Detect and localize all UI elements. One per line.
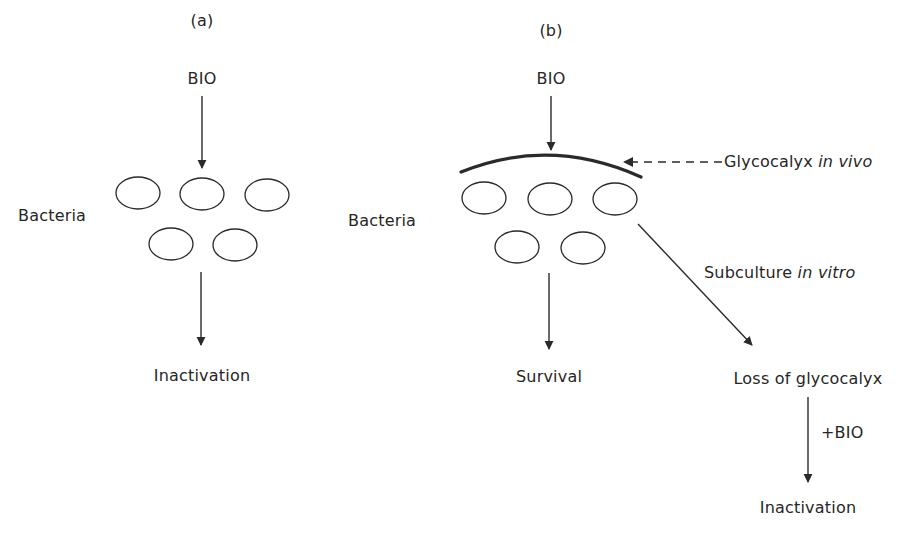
input-label-b: BIO [537, 70, 566, 88]
panel-a [116, 96, 289, 345]
plus-bio-label: +BIO [821, 424, 864, 442]
bacterium-icon [149, 228, 193, 260]
glycocalyx-in-vivo-label: Glycocalyx in vivo [724, 153, 872, 171]
loss-of-glycocalyx-label: Loss of glycocalyx [734, 370, 883, 388]
bacterium-icon [528, 183, 572, 215]
outcome-label-survival: Survival [516, 368, 582, 386]
bacteria-cluster-a [116, 177, 289, 261]
outcome-label-inactivation-b: Inactivation [760, 499, 857, 517]
subculture-in-vitro-label: Subculture in vitro [704, 264, 855, 282]
bacterium-icon [561, 232, 605, 264]
in-vivo-text: in vivo [818, 152, 872, 171]
bacterium-icon [116, 177, 160, 209]
panel-a-label: (a) [191, 12, 214, 30]
bacteria-cluster-b [462, 182, 637, 264]
bacterium-icon [462, 182, 506, 214]
bacterium-icon [180, 178, 224, 210]
panel-b-label: (b) [539, 22, 562, 40]
glycocalyx-arc [461, 155, 641, 177]
bacterium-icon [593, 183, 637, 215]
input-label-a: BIO [188, 70, 217, 88]
bacteria-label-a: Bacteria [18, 207, 86, 225]
bacteria-label-b: Bacteria [348, 212, 416, 230]
bacterium-icon [213, 229, 257, 261]
bacterium-icon [495, 231, 539, 263]
glycocalyx-label-text: Glycocalyx [724, 152, 818, 171]
arrow-subculture-in-vitro [638, 224, 752, 345]
outcome-label-a: Inactivation [154, 367, 251, 385]
bacterium-icon [245, 179, 289, 211]
subculture-label-text: Subculture [704, 263, 798, 282]
in-vitro-text: in vitro [798, 263, 856, 282]
